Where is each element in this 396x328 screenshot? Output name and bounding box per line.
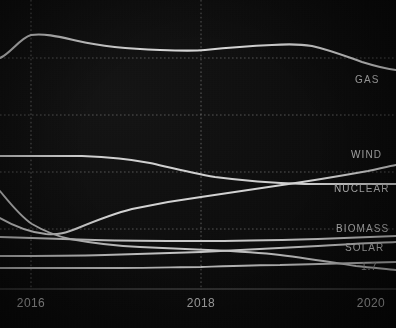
series-line-gas (0, 34, 396, 70)
chart-container: GAS WIND NUCLEAR BIOMASS SOLAR 1.7 2016 … (0, 0, 396, 328)
series-line-coal (0, 262, 396, 268)
x-tick-label-2018: 2018 (187, 296, 215, 310)
x-tick-label-2020: 2020 (357, 296, 385, 310)
series-value-label-coal: 1.7 (361, 260, 377, 272)
series-label-gas: GAS (355, 74, 379, 85)
horizontal-gridlines (0, 58, 396, 229)
series-label-nuclear: NUCLEAR (334, 183, 390, 194)
series-label-solar: SOLAR (345, 242, 384, 253)
series-line-nuclear (0, 156, 396, 184)
series-label-wind: WIND (351, 149, 382, 160)
vertical-gridlines (31, 0, 201, 290)
line-chart: GAS WIND NUCLEAR BIOMASS SOLAR 1.7 2016 … (0, 0, 396, 328)
series-label-biomass: BIOMASS (336, 223, 389, 234)
x-tick-label-2016: 2016 (17, 296, 45, 310)
